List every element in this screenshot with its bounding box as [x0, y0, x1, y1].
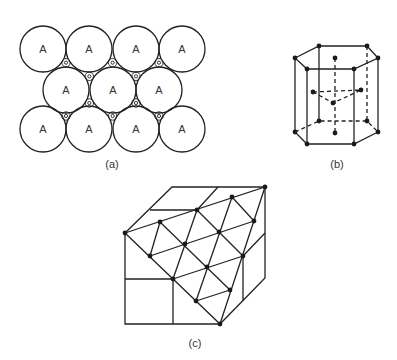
cube-front-inner-edges: [125, 279, 173, 324]
sphere-label: A: [39, 43, 47, 55]
plane-lattice-line: [196, 197, 232, 301]
panel-a-close-packed-layer: AAAAAAAAAAA: [20, 26, 205, 152]
plane-lattice-line: [232, 197, 254, 221]
panel-b-hcp-cell: [293, 44, 381, 147]
sphere-label: A: [178, 43, 186, 55]
sphere-label: A: [109, 84, 117, 96]
plane-lattice-line: [150, 222, 160, 256]
sphere-label: A: [62, 84, 70, 96]
sphere-label: A: [132, 123, 140, 135]
panel-c-label: (c): [189, 337, 202, 349]
sphere-label: A: [85, 123, 93, 135]
panel-a-label: (a): [105, 158, 118, 170]
plane-lattice-line: [196, 290, 230, 301]
sphere-label: A: [155, 84, 163, 96]
sphere-label: A: [39, 123, 47, 135]
sphere-label: A: [178, 123, 186, 135]
sphere-label: A: [85, 43, 93, 55]
panel-c-cube: [123, 185, 268, 327]
panel-b-label: (b): [330, 158, 343, 170]
crystal-structure-figure: AAAAAAAAAAA (a): [0, 0, 397, 360]
sphere-label: A: [132, 43, 140, 55]
